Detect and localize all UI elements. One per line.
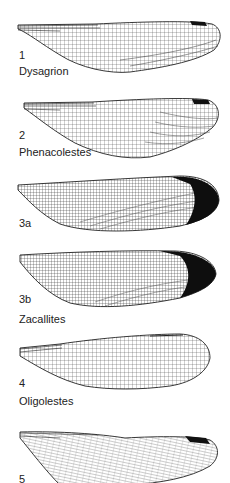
panel-number-1: 1 [19,49,25,61]
panel-number-3a: 3a [19,217,31,229]
genus-label-zacallites: Zacallites [19,313,65,325]
panel-number-3b: 3b [19,293,31,305]
genus-label-oligolestes: Oligolestes [19,395,73,407]
panel-number-4: 4 [19,377,25,389]
wing-venation-figure: 1 Dysagrion 2 Phenacolestes 3a 3b Zacall… [0,0,230,483]
wing-3b [20,251,216,307]
genus-label-dysagrion: Dysagrion [19,65,69,77]
panel-number-5: 5 [19,473,25,483]
wing-5 [20,432,218,483]
panel-number-2: 2 [19,129,25,141]
wing-3a [18,176,219,231]
wing-4-oligolestes [20,334,210,389]
genus-label-phenacolestes: Phenacolestes [19,146,91,158]
